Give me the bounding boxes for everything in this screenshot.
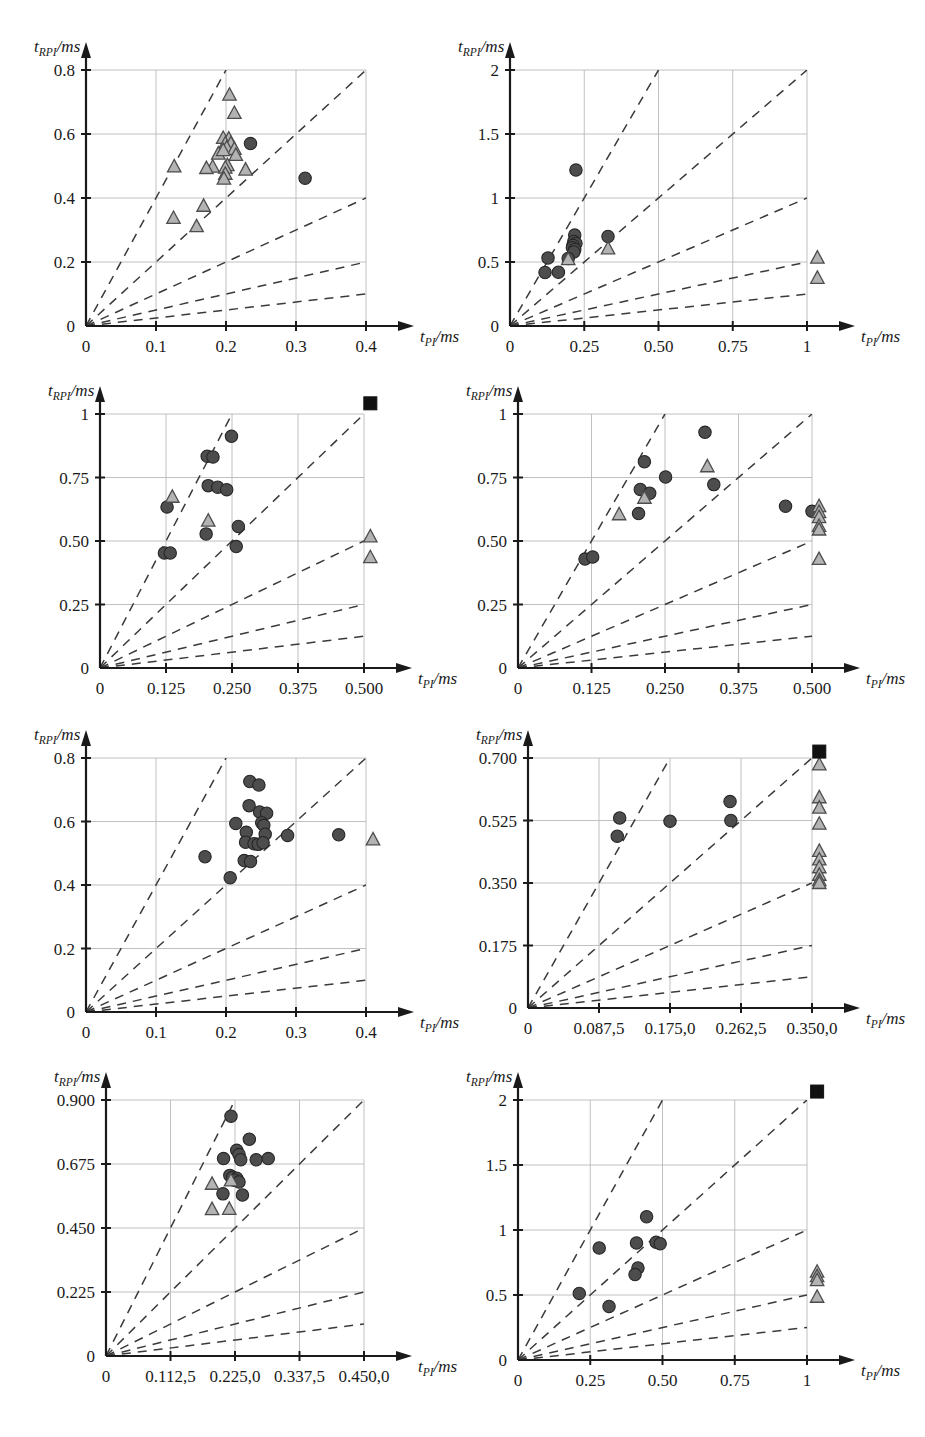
data-point-circle [253, 779, 265, 791]
series-circles [199, 775, 345, 884]
y-tick-label: 0 [499, 1351, 508, 1370]
series-triangles [813, 758, 826, 889]
data-markers [158, 397, 377, 563]
scatter-panel-p7: 00.112,50.225,00.337,50.450,000.2250.450… [18, 1058, 436, 1418]
x-tick-label: 0.4 [355, 1023, 377, 1042]
data-markers [539, 164, 824, 283]
y-tick-label: 0.900 [57, 1091, 95, 1110]
data-point-circle [552, 266, 564, 278]
series-circles [611, 795, 737, 842]
y-tick-label: 0.225 [57, 1283, 95, 1302]
y-tick-label: 0 [87, 1347, 96, 1366]
data-point-triangle [811, 271, 824, 283]
x-tick-label: 0 [506, 337, 515, 356]
data-point-square [364, 397, 377, 410]
x-tick-label: 0.375 [719, 679, 757, 698]
data-point-triangle [811, 251, 824, 263]
data-point-circle [593, 1242, 605, 1254]
tick-marks: 00.087,50.175,00.262,50.350,000.1750.350… [479, 749, 838, 1038]
data-point-circle [250, 1154, 262, 1166]
y-axis-label: tRPI/ms [48, 381, 95, 402]
axes [101, 1072, 412, 1361]
x-tick-label: 0.337,5 [274, 1367, 325, 1386]
data-point-circle [224, 871, 236, 883]
data-point-circle [225, 430, 237, 442]
y-axis-label: tRPI/ms [466, 381, 513, 402]
data-markers [205, 1110, 274, 1215]
y-tick-label: 0.8 [54, 749, 75, 768]
x-tick-label: 0.125 [147, 679, 185, 698]
x-tick-label: 0.3 [285, 337, 306, 356]
axes [81, 730, 414, 1017]
data-point-triangle [202, 514, 215, 526]
data-point-circle [262, 1152, 274, 1164]
data-point-circle [779, 500, 791, 512]
x-tick-label: 0 [514, 679, 523, 698]
data-point-circle [542, 252, 554, 264]
data-point-triangle [601, 241, 614, 253]
data-point-triangle [166, 490, 179, 502]
data-point-circle [244, 137, 256, 149]
y-tick-label: 0.700 [479, 749, 517, 768]
data-point-circle [699, 426, 711, 438]
scatter-panel-p6: 00.087,50.175,00.262,50.350,000.1750.350… [440, 716, 902, 1064]
figure-container: 00.10.20.30.400.20.40.60.8tRPI/mstPI/ms0… [0, 0, 925, 1437]
y-tick-label: 0.350 [479, 874, 517, 893]
data-point-triangle [228, 106, 241, 118]
y-tick-label: 0 [67, 1003, 76, 1022]
y-tick-label: 0.6 [54, 125, 75, 144]
data-point-square [813, 745, 826, 758]
x-tick-label: 0.087,5 [574, 1019, 625, 1038]
series-circles [244, 137, 311, 184]
data-point-circle [217, 1152, 229, 1164]
x-axis-label: tPI/ms [861, 327, 901, 348]
x-tick-label: 0.2 [215, 1023, 236, 1042]
y-tick-label: 0 [499, 659, 508, 678]
data-point-circle [236, 1189, 248, 1201]
y-tick-label: 0.75 [59, 469, 89, 488]
y-tick-label: 0.25 [477, 596, 507, 615]
data-point-triangle [190, 219, 203, 231]
x-tick-label: 0.500 [345, 679, 383, 698]
data-point-circle [638, 456, 650, 468]
data-point-triangle [364, 550, 377, 562]
data-point-circle [664, 815, 676, 827]
series-circles [573, 1211, 666, 1313]
x-axis-label: tPI/ms [861, 1361, 901, 1382]
data-point-triangle [701, 459, 714, 471]
axes [513, 386, 860, 673]
data-point-circle [235, 1154, 247, 1166]
series-triangles [166, 490, 377, 563]
data-point-circle [708, 478, 720, 490]
data-point-circle [257, 837, 269, 849]
x-tick-label: 0.225,0 [210, 1367, 261, 1386]
data-point-circle [630, 1237, 642, 1249]
x-tick-label: 0.50 [648, 1371, 678, 1390]
x-tick-label: 0.375 [279, 679, 317, 698]
data-point-circle [725, 814, 737, 826]
y-tick-label: 1 [499, 1221, 508, 1240]
data-point-triangle [205, 1202, 218, 1214]
data-point-circle [573, 1287, 585, 1299]
tick-marks: 00.1250.2500.3750.50000.250.500.751 [477, 405, 831, 698]
y-tick-label: 1.5 [486, 1156, 507, 1175]
series-circles [539, 164, 614, 279]
data-point-circle [539, 266, 551, 278]
scatter-panel-p2: 00.250.500.75100.511.52tRPI/mstPI/ms [432, 28, 902, 378]
data-point-circle [654, 1237, 666, 1249]
scatter-panel-p3: 00.1250.2500.3750.50000.250.500.751tRPI/… [18, 372, 436, 720]
y-tick-label: 1 [491, 189, 500, 208]
data-point-triangle [197, 199, 210, 211]
data-point-circle [243, 1133, 255, 1145]
data-point-triangle [168, 159, 181, 171]
x-tick-label: 0.450,0 [339, 1367, 390, 1386]
y-tick-label: 0.2 [54, 940, 75, 959]
y-tick-label: 1 [81, 405, 90, 424]
x-tick-label: 0.112,5 [145, 1367, 195, 1386]
data-point-circle [232, 520, 244, 532]
series-circles [217, 1110, 275, 1201]
data-markers [167, 88, 311, 232]
y-tick-label: 0.525 [479, 812, 517, 831]
x-tick-label: 0.2 [215, 337, 236, 356]
data-point-circle [225, 1110, 237, 1122]
